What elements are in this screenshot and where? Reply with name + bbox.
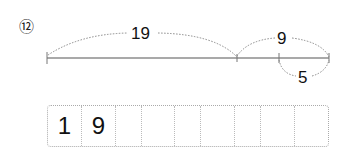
answer-cell[interactable] [295,106,328,146]
answer-cell[interactable] [175,106,201,146]
answer-cell[interactable] [261,106,295,146]
answer-cell[interactable] [116,106,142,146]
bottom-arc-label: 5 [298,69,307,86]
right-top-arc-label: 9 [277,30,286,47]
answer-cell[interactable] [235,106,261,146]
answer-cell[interactable] [201,106,235,146]
answer-cell[interactable] [142,106,175,146]
answer-box: 1 9 [47,105,329,147]
answer-cell[interactable]: 1 [48,106,82,146]
top-arc-label: 19 [131,25,150,42]
answer-cell[interactable]: 9 [82,106,116,146]
